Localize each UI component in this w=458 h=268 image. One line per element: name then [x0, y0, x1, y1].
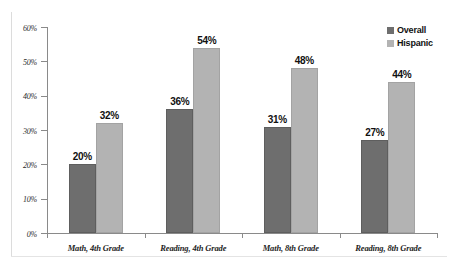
bar-value-label: 44%	[392, 69, 411, 80]
y-axis-tick-label: 0%	[27, 229, 37, 238]
bar-value-label: 48%	[295, 55, 314, 66]
bar-value-label: 20%	[73, 151, 92, 162]
bar-chart: 0%10%20%30%40%50%60% 20%32%36%54%31%48%2…	[0, 0, 458, 268]
bar-group: 31%48%	[242, 27, 340, 233]
legend-label: Hispanic	[397, 38, 433, 48]
bar-group-bars: 36%54%	[145, 27, 243, 233]
legend-swatch-icon	[387, 40, 394, 47]
page-border-left	[11, 12, 12, 256]
bar-group-bars: 27%44%	[340, 27, 438, 233]
bar-hispanic[interactable]: 48%	[291, 68, 318, 233]
y-axis-tick-label: 10%	[23, 195, 37, 204]
bar-hispanic[interactable]: 32%	[96, 123, 123, 233]
bar-value-label: 32%	[100, 110, 119, 121]
bar-overall[interactable]: 27%	[361, 140, 388, 233]
plot-area: 20%32%36%54%31%48%27%44%	[47, 27, 437, 233]
y-axis-tick-label: 40%	[23, 92, 37, 101]
bar-group: 27%44%	[340, 27, 438, 233]
y-axis-tick-label: 20%	[23, 160, 37, 169]
y-axis-tick-label: 30%	[23, 126, 37, 135]
y-axis-tick-label: 50%	[23, 57, 37, 66]
x-axis-tick	[145, 233, 146, 238]
x-axis-category-label: Math, 4th Grade	[47, 243, 145, 253]
bar-overall[interactable]: 36%	[166, 109, 193, 233]
bar-hispanic[interactable]: 54%	[193, 48, 220, 233]
legend-item-hispanic[interactable]: Hispanic	[387, 38, 433, 48]
bar-group: 36%54%	[145, 27, 243, 233]
bar-group-bars: 20%32%	[47, 27, 145, 233]
x-axis-tick	[340, 233, 341, 238]
bar-value-label: 36%	[170, 96, 189, 107]
page-border-bottom	[11, 256, 447, 257]
bar-group: 20%32%	[47, 27, 145, 233]
bar-group-bars: 31%48%	[242, 27, 340, 233]
bar-value-label: 31%	[268, 114, 287, 125]
legend-item-overall[interactable]: Overall	[387, 25, 433, 35]
bar-hispanic[interactable]: 44%	[388, 82, 415, 233]
y-axis-tick-label: 60%	[23, 23, 37, 32]
bar-overall[interactable]: 31%	[264, 127, 291, 233]
x-axis-category-label: Math, 8th Grade	[242, 243, 340, 253]
chart-legend: OverallHispanic	[387, 25, 433, 48]
x-axis-tick	[47, 233, 48, 238]
bar-overall[interactable]: 20%	[69, 164, 96, 233]
x-axis-tick	[437, 233, 438, 238]
legend-swatch-icon	[387, 27, 394, 34]
x-axis-category-label: Reading, 8th Grade	[340, 243, 438, 253]
bar-value-label: 27%	[365, 127, 384, 138]
x-axis-category-label: Reading, 4th Grade	[145, 243, 243, 253]
x-axis-tick	[242, 233, 243, 238]
bar-value-label: 54%	[197, 35, 216, 46]
legend-label: Overall	[397, 25, 426, 35]
